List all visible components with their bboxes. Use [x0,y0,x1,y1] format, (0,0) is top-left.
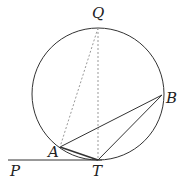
diagram-canvas [0,0,183,182]
geometry-diagram: Q B A P T [0,0,183,182]
chord-TB [98,95,162,160]
chord-AT [60,147,98,160]
label-B: B [166,91,177,106]
label-P: P [10,164,20,179]
label-T: T [92,164,102,179]
label-Q: Q [92,6,104,21]
dashed-QA [60,28,98,147]
label-A: A [48,145,59,160]
